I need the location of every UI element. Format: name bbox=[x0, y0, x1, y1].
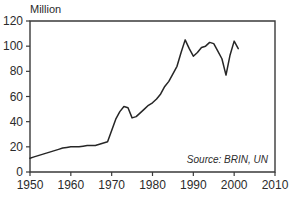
y-axis-ticks: 020406080100120 bbox=[3, 14, 30, 179]
x-tick-label: 1990 bbox=[180, 178, 207, 192]
x-tick-label: 1970 bbox=[98, 178, 125, 192]
x-tick-label: 2000 bbox=[221, 178, 248, 192]
y-tick-label: 20 bbox=[10, 140, 24, 154]
y-axis-label: Million bbox=[30, 3, 61, 15]
frame-rect bbox=[30, 21, 275, 172]
x-tick-label: 1950 bbox=[17, 178, 44, 192]
y-tick-label: 40 bbox=[10, 115, 24, 129]
series-line-value bbox=[30, 40, 238, 158]
x-tick-label: 1980 bbox=[139, 178, 166, 192]
plot-frame bbox=[30, 21, 275, 172]
data-series-group bbox=[30, 40, 238, 158]
y-tick-label: 120 bbox=[3, 14, 23, 28]
x-tick-label: 2010 bbox=[262, 178, 289, 192]
chart-container: 020406080100120 195019601970198019902000… bbox=[0, 0, 289, 198]
y-tick-label: 0 bbox=[16, 165, 23, 179]
source-annotation: Source: BRIN, UN bbox=[187, 154, 269, 165]
line-chart: 020406080100120 195019601970198019902000… bbox=[0, 0, 289, 198]
y-tick-label: 80 bbox=[10, 64, 24, 78]
x-axis-ticks: 1950196019701980199020002010 bbox=[17, 172, 289, 192]
x-tick-label: 1960 bbox=[57, 178, 84, 192]
y-tick-label: 100 bbox=[3, 39, 23, 53]
y-tick-label: 60 bbox=[10, 90, 24, 104]
